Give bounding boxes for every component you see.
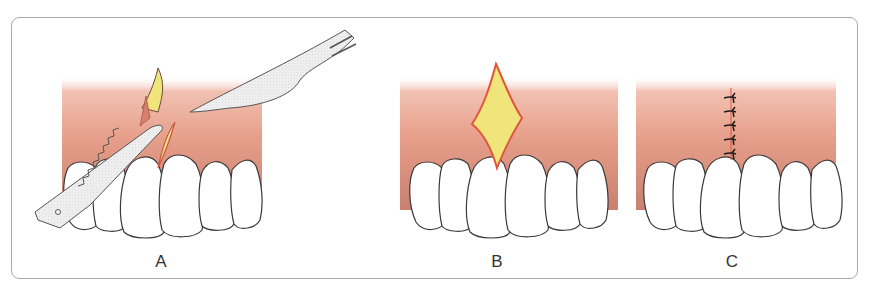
- forceps-hole: [56, 210, 61, 215]
- scalpel-icon: [190, 30, 354, 112]
- panel-label-a: A: [146, 252, 176, 272]
- panel-label-b: B: [482, 252, 512, 272]
- panel-b: [400, 64, 618, 238]
- illustration: [0, 0, 872, 289]
- panel-label-c: C: [717, 252, 747, 272]
- panel-a: [35, 30, 356, 238]
- panel-c: [636, 75, 842, 238]
